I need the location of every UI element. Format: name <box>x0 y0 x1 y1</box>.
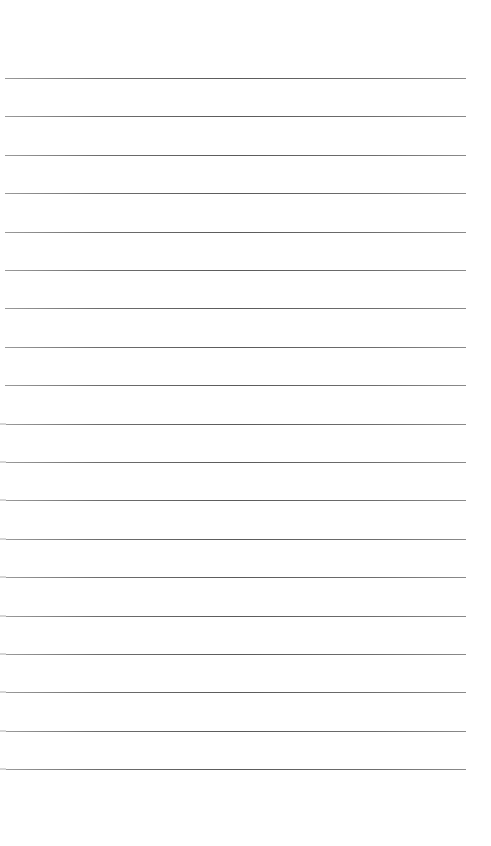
ruled-line <box>5 385 466 386</box>
lined-paper-page <box>0 0 491 846</box>
ruled-line <box>5 347 466 348</box>
ruled-line <box>5 308 466 309</box>
ruled-line <box>5 116 466 117</box>
ruled-line <box>5 692 466 693</box>
ruled-line <box>5 500 466 501</box>
ruled-line <box>5 731 466 732</box>
ruled-line <box>5 616 466 617</box>
ruled-line <box>5 232 466 233</box>
margin-edge-mark <box>0 653 6 655</box>
margin-edge-mark <box>0 423 6 425</box>
ruled-line <box>5 270 466 271</box>
ruled-line <box>5 577 466 578</box>
ruled-line <box>5 424 466 425</box>
margin-edge-mark <box>0 576 6 578</box>
ruled-line <box>5 155 466 156</box>
margin-edge-mark <box>0 730 6 732</box>
ruled-line <box>5 539 466 540</box>
ruled-line <box>5 462 466 463</box>
margin-edge-mark <box>0 615 6 617</box>
margin-edge-mark <box>0 691 6 693</box>
margin-edge-mark <box>0 461 6 463</box>
ruled-line <box>5 769 466 770</box>
margin-edge-mark <box>0 538 6 540</box>
ruled-line <box>5 654 466 655</box>
ruled-line <box>5 193 466 194</box>
margin-edge-mark <box>0 499 6 501</box>
ruled-line <box>5 78 466 79</box>
margin-edge-mark <box>0 768 6 770</box>
